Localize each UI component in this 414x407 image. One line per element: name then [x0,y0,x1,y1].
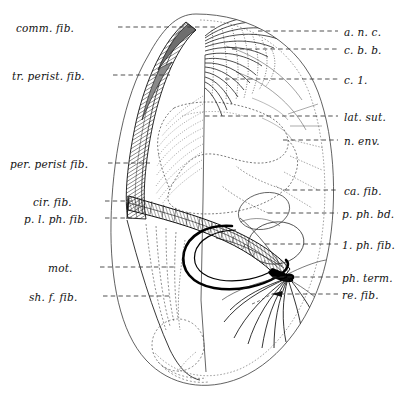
label-sh-f-fib: sh. f. fib. [29,291,78,303]
label-1-ph-fib: 1. ph. fib. [342,239,395,251]
label-per-perist-fib: per. perist fib. [10,158,88,170]
label-ca-fib: ca. fib. [344,185,382,197]
label-a-n-c: a. n. c. [344,26,381,38]
label-c-1: c. 1. [344,74,368,86]
label-lat-sut: lat. sut. [344,111,386,123]
label-re-fib: re. fib. [342,289,379,301]
label-cir-fib: cir. fib. [33,196,72,208]
label-pl-ph-fib: p. l. ph. fib. [24,213,88,225]
label-tr-perist-fib: tr. perist. fib. [12,70,85,82]
label-mot: mot. [48,262,73,274]
figure-caption [0,397,414,407]
label-p-ph-bd: p. ph. bd. [342,208,394,220]
label-comm-fib: comm. fib. [16,22,74,34]
label-n-env: n. env. [344,135,380,147]
label-c-b-b: c. b. b. [344,44,382,56]
label-ph-term: ph. term. [342,272,393,284]
